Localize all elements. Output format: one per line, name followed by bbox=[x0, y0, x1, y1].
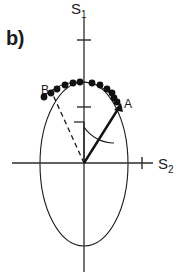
data-point-group bbox=[41, 79, 121, 106]
s2-axis-label-subscript: 2 bbox=[168, 164, 174, 175]
s1-axis-label-subscript: 1 bbox=[81, 9, 87, 20]
s2-axis-label: S2 bbox=[158, 155, 174, 175]
diagram-canvas bbox=[0, 0, 186, 279]
polarization-poincare-diagram: b) S1 S2 A B bbox=[0, 0, 186, 279]
data-point bbox=[114, 99, 121, 106]
data-point bbox=[97, 82, 104, 89]
data-point bbox=[77, 79, 84, 86]
vector-a-label: A bbox=[124, 97, 132, 111]
panel-label: b) bbox=[6, 27, 24, 50]
vector-b-label: B bbox=[41, 83, 49, 97]
s2-axis-label-text: S bbox=[158, 155, 168, 172]
data-point bbox=[70, 80, 77, 87]
data-point bbox=[62, 82, 69, 89]
data-point bbox=[54, 86, 61, 93]
vector-a-solid-line bbox=[84, 109, 118, 163]
data-point bbox=[89, 80, 96, 87]
s1-axis-label: S1 bbox=[71, 0, 87, 20]
s1-axis-label-text: S bbox=[71, 0, 81, 17]
vector-b-dashed-line bbox=[53, 95, 84, 163]
